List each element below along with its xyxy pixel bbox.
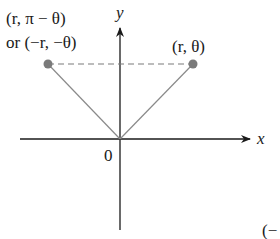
ray-to-r-pi-minus-theta [48,64,120,139]
origin-label: 0 [104,147,113,164]
label-r-pi-minus-theta: (r, π − θ) [6,10,66,27]
label-neg-r-neg-theta: or (−r, −θ) [6,34,77,51]
label-r-theta: (r, θ) [172,38,205,55]
ray-to-r-theta [120,64,193,139]
cutoff-label: (− [262,222,277,239]
point-r-pi-minus-theta [44,60,53,69]
x-axis-label: x [257,130,265,147]
y-axis-label: y [116,4,124,21]
point-r-theta [189,60,198,69]
